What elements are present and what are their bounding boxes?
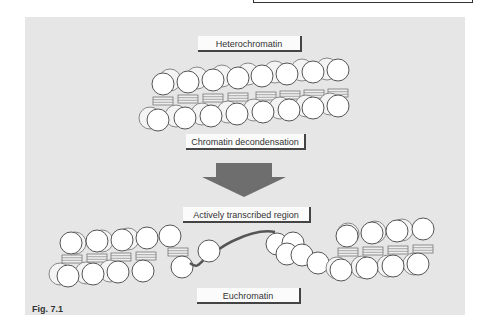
heterochromatin-fiber bbox=[139, 58, 349, 131]
transcribed-region-label: Actively transcribed region bbox=[183, 207, 311, 223]
euchromatin-left-fiber bbox=[49, 225, 193, 287]
down-arrow-icon bbox=[202, 163, 286, 197]
euchromatin-right-fiber bbox=[326, 218, 434, 281]
euchromatin-label: Euchromatin bbox=[197, 288, 301, 304]
figure-caption: Fig. 7.1 bbox=[32, 304, 63, 314]
open-region-nucleosomes bbox=[198, 232, 329, 274]
decondensation-label: Chromatin decondensation bbox=[186, 134, 306, 150]
heterochromatin-label: Heterochromatin bbox=[198, 36, 302, 52]
